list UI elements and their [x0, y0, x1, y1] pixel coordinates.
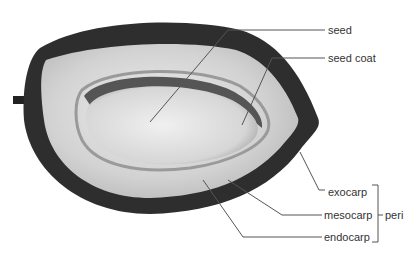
- label-endocarp: endocarp: [324, 231, 370, 243]
- pericarp-bracket: [372, 185, 378, 242]
- label-seed: seed: [328, 24, 352, 36]
- label-exocarp: exocarp: [328, 186, 367, 198]
- label-seed-coat: seed coat: [328, 52, 376, 64]
- label-mesocarp: mesocarp: [324, 209, 372, 221]
- label-pericarp-group: peri: [385, 209, 403, 221]
- exocarp-leader: [300, 152, 325, 190]
